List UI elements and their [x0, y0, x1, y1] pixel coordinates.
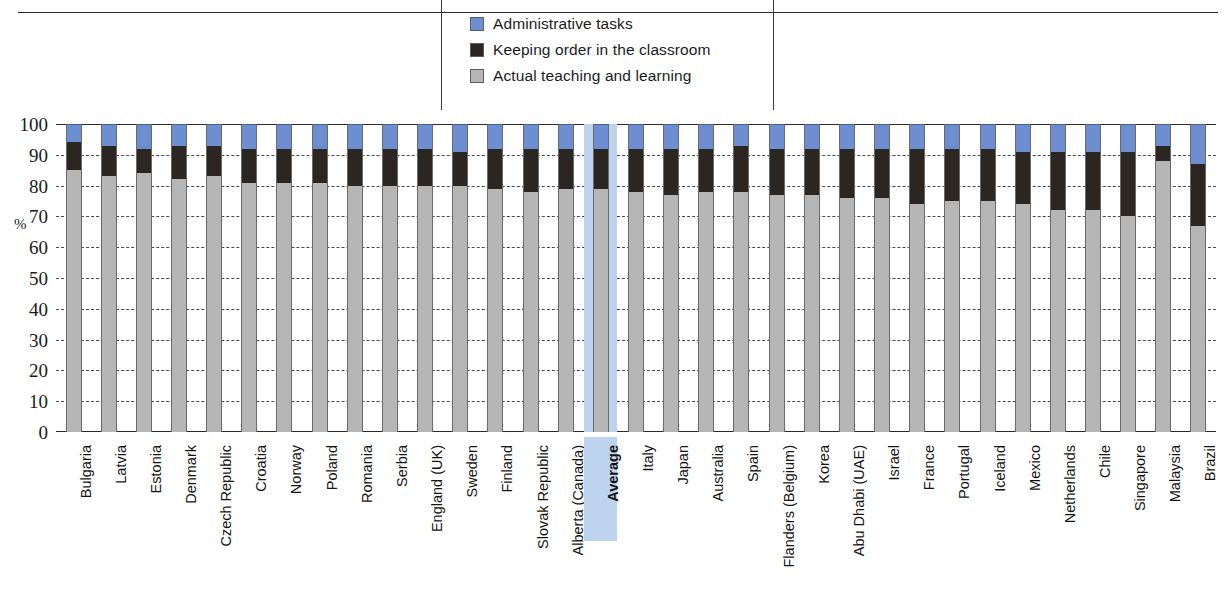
bar-italy: [628, 124, 644, 432]
x-axis-labels: BulgariaLatviaEstoniaDenmarkCzech Republ…: [56, 437, 1216, 602]
legend-label-keeping_order: Keeping order in the classroom: [493, 41, 711, 59]
bar-estonia: [136, 124, 152, 432]
segment-admin: [839, 124, 855, 149]
segment-teach: [874, 198, 890, 432]
segment-admin: [980, 124, 996, 149]
segment-admin: [66, 124, 82, 142]
segment-order: [171, 146, 187, 180]
y-axis-tick-20: 20: [29, 361, 48, 380]
bar-spain: [733, 124, 749, 432]
segment-admin: [593, 124, 609, 149]
bar-abu-dhabi-uae: [839, 124, 855, 432]
segment-teach: [909, 204, 925, 432]
bar-brazil: [1190, 124, 1206, 432]
x-axis-label-croatia: Croatia: [254, 445, 269, 492]
bar-croatia: [241, 124, 257, 432]
segment-teach: [628, 192, 644, 432]
segment-order: [276, 149, 292, 183]
segment-order: [1085, 152, 1101, 211]
segment-order: [769, 149, 785, 195]
bar-average: [593, 124, 609, 432]
segment-order: [66, 142, 82, 170]
legend-swatch-teaching: [470, 69, 484, 83]
segment-teach: [171, 179, 187, 432]
segment-teach: [558, 189, 574, 432]
segment-order: [804, 149, 820, 195]
y-axis-tick-90: 90: [29, 145, 48, 164]
segment-teach: [698, 192, 714, 432]
segment-admin: [487, 124, 503, 149]
x-axis-label-korea: Korea: [817, 445, 832, 484]
bar-korea: [804, 124, 820, 432]
segment-admin: [1050, 124, 1066, 152]
x-axis-label-average: Average: [606, 445, 621, 502]
y-axis-tick-10: 10: [29, 392, 48, 411]
segment-teach: [206, 176, 222, 432]
x-axis-label-singapore: Singapore: [1133, 445, 1148, 511]
segment-teach: [66, 170, 82, 432]
segment-order: [1050, 152, 1066, 211]
segment-admin: [944, 124, 960, 149]
x-axis-label-netherlands: Netherlands: [1063, 445, 1078, 523]
segment-order: [523, 149, 539, 192]
bar-slovak-republic: [523, 124, 539, 432]
x-axis-label-chile: Chile: [1098, 445, 1113, 478]
segment-order: [1190, 164, 1206, 226]
segment-admin: [1190, 124, 1206, 164]
segment-order: [452, 152, 468, 186]
x-axis-label-norway: Norway: [289, 445, 304, 494]
segment-admin: [698, 124, 714, 149]
bar-netherlands: [1050, 124, 1066, 432]
legend-item-keeping_order: Keeping order in the classroom: [470, 37, 773, 63]
x-axis-label-spain: Spain: [746, 445, 761, 482]
segment-teach: [523, 192, 539, 432]
x-axis-label-iceland: Iceland: [993, 445, 1008, 492]
y-axis-tick-40: 40: [29, 299, 48, 318]
x-axis-label-latvia: Latvia: [114, 445, 129, 484]
bar-denmark: [171, 124, 187, 432]
segment-admin: [523, 124, 539, 149]
segment-teach: [839, 198, 855, 432]
x-axis-label-italy: Italy: [641, 445, 656, 472]
segment-admin: [347, 124, 363, 149]
x-axis-label-denmark: Denmark: [184, 445, 199, 504]
legend-item-administrative: Administrative tasks: [470, 11, 773, 37]
x-axis-label-flanders-belgium: Flanders (Belgium): [782, 445, 797, 568]
segment-admin: [417, 124, 433, 149]
x-axis-label-portugal: Portugal: [957, 445, 972, 499]
segment-teach: [980, 201, 996, 432]
x-axis-label-poland: Poland: [325, 445, 340, 490]
y-axis-unit-label: %: [14, 216, 27, 233]
segment-admin: [769, 124, 785, 149]
x-axis-label-australia: Australia: [711, 445, 726, 501]
segment-order: [944, 149, 960, 201]
x-axis-label-mexico: Mexico: [1028, 445, 1043, 491]
x-axis-label-brazil: Brazil: [1203, 445, 1218, 481]
segment-teach: [1120, 216, 1136, 432]
segment-order: [312, 149, 328, 183]
segment-teach: [1050, 210, 1066, 432]
x-axis-label-estonia: Estonia: [149, 445, 164, 493]
y-axis-tick-100: 100: [20, 115, 49, 134]
segment-admin: [101, 124, 117, 146]
bar-latvia: [101, 124, 117, 432]
segment-admin: [452, 124, 468, 152]
x-axis-label-sweden: Sweden: [465, 445, 480, 497]
segment-admin: [663, 124, 679, 149]
segment-admin: [241, 124, 257, 149]
segment-order: [593, 149, 609, 189]
bar-portugal: [944, 124, 960, 432]
bar-chile: [1085, 124, 1101, 432]
segment-teach: [769, 195, 785, 432]
segment-order: [698, 149, 714, 192]
segment-order: [874, 149, 890, 198]
bar-poland: [312, 124, 328, 432]
segment-order: [1155, 146, 1171, 161]
bar-bulgaria: [66, 124, 82, 432]
segment-teach: [487, 189, 503, 432]
plot-area: [56, 124, 1216, 432]
y-axis: % 1009080706050403020100: [0, 124, 48, 432]
bar-singapore: [1120, 124, 1136, 432]
legend-label-administrative: Administrative tasks: [493, 15, 633, 33]
segment-admin: [312, 124, 328, 149]
